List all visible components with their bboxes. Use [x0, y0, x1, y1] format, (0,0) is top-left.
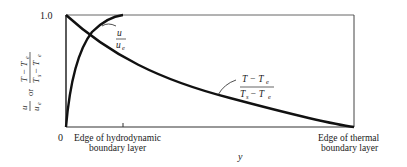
hydro-edge-label-line2: boundary layer	[89, 143, 147, 153]
temperature-label-leader	[218, 80, 236, 95]
svg-text:T − T: T − T	[242, 74, 264, 84]
x-axis-label: y	[237, 151, 243, 162]
velocity-series-label: u u e	[116, 28, 126, 51]
svg-text:e: e	[36, 102, 42, 105]
temperature-profile-curve	[66, 15, 354, 127]
temperature-series-label: T − T e T s − T e	[240, 74, 274, 100]
origin-label: 0	[58, 132, 63, 143]
thermal-edge-label-line1: Edge of thermal	[318, 133, 380, 143]
velocity-label-leader	[102, 24, 116, 26]
thermal-edge-label-line2: boundary layer	[321, 143, 379, 153]
svg-text:e: e	[266, 78, 269, 85]
svg-text:u: u	[31, 106, 41, 111]
velocity-profile-curve	[66, 15, 123, 127]
svg-text:− T: − T	[250, 89, 265, 99]
plot-frame	[66, 15, 354, 127]
y-axis-label: u u e or T − T e T s − T e	[19, 52, 42, 111]
svg-text:e: e	[24, 56, 30, 59]
svg-text:s: s	[246, 93, 249, 100]
svg-text:e: e	[36, 54, 42, 57]
svg-text:u: u	[19, 105, 29, 110]
svg-text:u: u	[117, 28, 122, 38]
svg-text:T − T: T − T	[19, 61, 29, 82]
svg-text:u: u	[116, 40, 121, 50]
y-tick-1: 1.0	[40, 10, 53, 21]
hydro-edge-label-line1: Edge of hydrodynamic	[74, 133, 161, 143]
svg-text:or: or	[25, 89, 35, 96]
svg-text:− T: − T	[31, 60, 41, 74]
boundary-layer-chart: 1.0 0 Edge of hydrodynamic boundary laye…	[0, 0, 407, 167]
svg-text:e: e	[122, 44, 125, 51]
svg-text:e: e	[268, 93, 271, 100]
